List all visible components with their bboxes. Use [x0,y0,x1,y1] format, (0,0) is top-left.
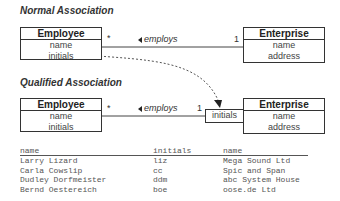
multiplicity-left: * [107,103,111,113]
attribute: initials [21,122,101,133]
qualified-association-title: Qualified Association [20,77,122,88]
normal-association-title: Normal Association [20,5,114,16]
employee-class-normal[interactable]: Employee name initials [20,27,102,60]
cell: Bernd Oestereich [20,185,153,195]
class-name: Employee [21,28,101,40]
enterprise-class-qualified[interactable]: Enterprise name address [243,98,325,134]
table-row: Dudley Dorfmeister ddm abc System House [20,175,308,185]
attribute: name [244,40,324,51]
table-header-row: name initials name [20,146,308,156]
multiplicity-left: * [107,33,111,43]
class-name: Enterprise [244,28,324,40]
direction-triangle-icon [138,37,142,43]
attribute: initials [21,51,101,62]
table-row: Bernd Oestereich boe oose.de Ltd [20,185,308,195]
attribute: name [21,40,101,51]
cell: Larry Lizard [20,156,153,166]
attribute: name [21,111,101,122]
attribute: address [244,122,324,133]
cell: cc [153,166,223,176]
data-table: name initials name Larry Lizard liz Mega… [20,146,308,194]
multiplicity-right: 1 [197,103,202,113]
multiplicity-right: 1 [234,34,239,44]
column-header: initials [153,146,223,156]
cell: liz [153,156,223,166]
qualifier-box[interactable]: initials [205,109,244,123]
cell: oose.de Ltd [223,185,308,195]
arrowhead-icon [214,100,222,108]
cell: abc System House [223,175,308,185]
employee-class-qualified[interactable]: Employee name initials [20,98,102,132]
column-header: name [223,146,308,156]
class-name: Enterprise [244,99,324,111]
cell: Carla Cowslip [20,166,153,176]
direction-triangle-icon [138,106,142,112]
association-label: employs [144,103,178,113]
cell: Dudley Dorfmeister [20,175,153,185]
association-label: employs [144,34,178,44]
cell: Mega Sound Ltd [223,156,308,166]
table-row: Carla Cowslip cc Spic and Span [20,166,308,176]
attribute: name [244,111,324,122]
attribute: address [244,51,324,62]
cell: ddm [153,175,223,185]
cell: Spic and Span [223,166,308,176]
class-name: Employee [21,99,101,111]
table-row: Larry Lizard liz Mega Sound Ltd [20,156,308,166]
cell: boe [153,185,223,195]
enterprise-class-normal[interactable]: Enterprise name address [243,27,325,63]
column-header: name [20,146,153,156]
